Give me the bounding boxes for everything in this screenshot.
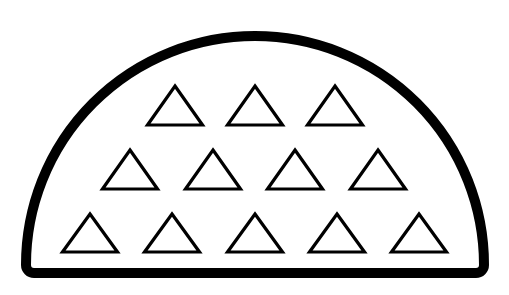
figure-svg: Half-disc containing triangles — [0, 0, 509, 295]
figure-canvas: Half-disc containing triangles — [0, 0, 509, 295]
triangle-row-top-row — [148, 86, 363, 125]
